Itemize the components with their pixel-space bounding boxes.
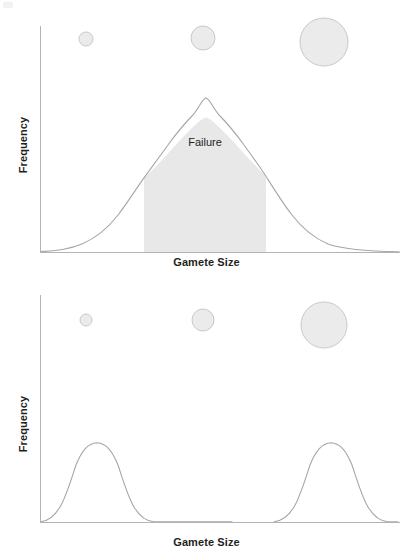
y-axis-label-top: Frequency xyxy=(17,100,29,190)
figure-gamete-size-distributions: Failure Gamete Size Frequency Gamete Siz… xyxy=(0,0,413,559)
distribution-curve-bottom-right xyxy=(274,443,398,522)
small-gamete-circle-top xyxy=(79,32,93,46)
failure-region-label: Failure xyxy=(144,136,266,148)
x-axis-label-top: Gamete Size xyxy=(0,256,413,268)
medium-gamete-circle-top xyxy=(191,26,215,50)
large-gamete-circle-bottom xyxy=(301,302,347,348)
x-axis-label-bottom: Gamete Size xyxy=(0,536,413,548)
chart-panel-bottom xyxy=(0,280,413,559)
small-gamete-circle-bottom xyxy=(80,314,92,326)
chart-svg-bottom xyxy=(0,280,413,559)
medium-gamete-circle-bottom xyxy=(192,309,214,331)
distribution-curve-bottom-left xyxy=(41,443,232,522)
large-gamete-circle-top xyxy=(300,18,348,66)
y-axis-label-bottom: Frequency xyxy=(17,379,29,469)
